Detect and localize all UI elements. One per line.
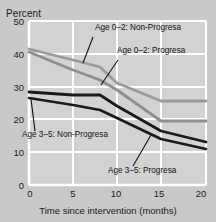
annotation-age-3-5-progresa: Age 3–5: Progresa bbox=[108, 166, 176, 175]
line-chart: Percent 50 40 30 20 10 0 0 5 10 15 20 bbox=[0, 0, 216, 222]
annotation-age-3-5-non-progresa: Age 3–5: Non-Progresa bbox=[22, 130, 108, 139]
x-axis-title: Time since intervention (months) bbox=[0, 205, 216, 216]
annotation-age-0-2-progresa: Age 0–2: Progresa bbox=[117, 46, 185, 55]
annotation-age-0-2-non-progresa: Age 0–2: Non-Progresa bbox=[95, 23, 181, 32]
plot-area bbox=[0, 0, 216, 222]
